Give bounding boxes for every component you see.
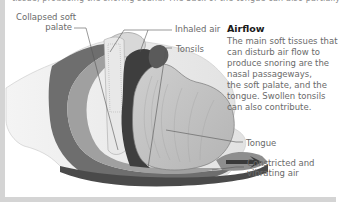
label-constricted-line1: Constricted and bbox=[247, 158, 314, 168]
airflow-line: the soft palate, and the bbox=[227, 80, 335, 91]
label-constricted-vibrating-air: Constricted and vibrating air bbox=[247, 158, 314, 178]
label-tonsils: Tonsils bbox=[176, 44, 204, 54]
airflow-line: can also contribute. bbox=[227, 102, 335, 113]
label-inhaled-air: Inhaled air bbox=[175, 24, 220, 34]
airflow-caption: Airflow The main soft tissues that can d… bbox=[227, 23, 335, 113]
airflow-line: nasal passageways, bbox=[227, 69, 335, 80]
airflow-title: Airflow bbox=[227, 23, 335, 35]
airflow-line: The main soft tissues that bbox=[227, 36, 335, 47]
airflow-body: The main soft tissues that can disturb a… bbox=[227, 36, 335, 113]
label-collapsed-soft-palate-line2: palate bbox=[16, 22, 72, 32]
label-constricted-line2: vibrating air bbox=[247, 168, 314, 178]
label-collapsed-soft-palate: Collapsed soft palate bbox=[16, 12, 72, 32]
airflow-line: can disturb air flow to bbox=[227, 47, 335, 58]
label-tongue: Tongue bbox=[246, 138, 276, 148]
airflow-line: produce snoring are the bbox=[227, 58, 335, 69]
airflow-line: tongue. Swollen tonsils bbox=[227, 91, 335, 102]
label-collapsed-soft-palate-line1: Collapsed soft bbox=[16, 12, 72, 22]
